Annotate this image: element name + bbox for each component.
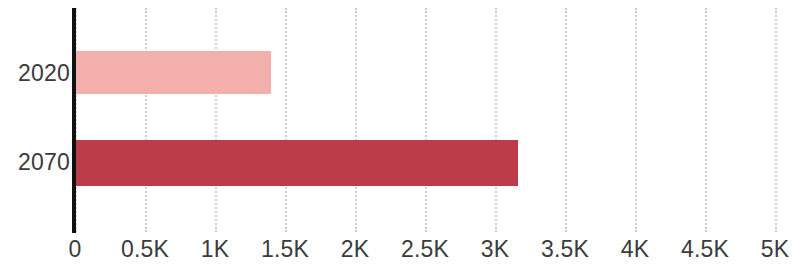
x-tick-label-0: 0	[69, 238, 82, 261]
x-tick-label-4.5K: 4.5K	[681, 238, 729, 261]
x-tick-label-4K: 4K	[621, 238, 650, 261]
x-tick-label-1K: 1K	[201, 238, 230, 261]
bar-chart: 2020 2070 0 0.5K 1K 1.5K 2K 2.5K 3K 3.5K…	[0, 0, 792, 268]
x-tick-label-0.5K: 0.5K	[121, 238, 169, 261]
x-axis-labels: 0 0.5K 1K 1.5K 2K 2.5K 3K 3.5K 4K 4.5K 5…	[0, 0, 792, 268]
x-tick-label-3.5K: 3.5K	[541, 238, 589, 261]
x-tick-label-2K: 2K	[341, 238, 370, 261]
x-tick-label-5K: 5K	[761, 238, 790, 261]
x-tick-label-1.5K: 1.5K	[261, 238, 309, 261]
x-tick-label-3K: 3K	[481, 238, 510, 261]
x-tick-label-2.5K: 2.5K	[401, 238, 449, 261]
